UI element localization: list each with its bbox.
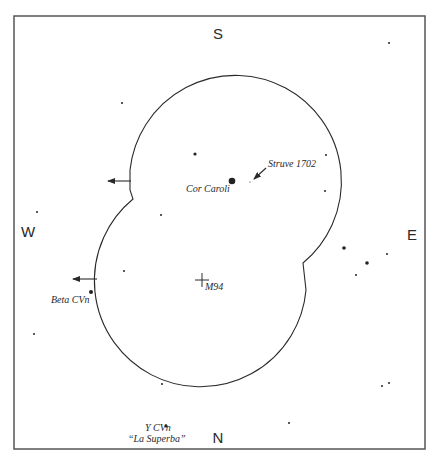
star-struve-1702 [249,181,250,182]
cardinal-north: N [213,429,224,446]
arrows-group [73,168,266,279]
star-dot [36,211,38,213]
star-dot [121,102,123,104]
cardinal-east: E [407,226,417,243]
star-dot [381,385,383,387]
finder-chart: S N W E Cor Caroli Struve 1702 M94 Beta … [0,0,435,466]
chart-frame [14,16,425,449]
star-dot [33,333,35,335]
stars-group [33,42,390,428]
label-la-superba: “La Superba” [128,433,186,444]
star-dot [365,261,369,265]
label-beta-cvn: Beta CVn [51,294,90,305]
label-struve-1702: Struve 1702 [268,158,316,169]
label-cor-caroli: Cor Caroli [186,183,230,194]
star-dot [325,154,327,156]
star-dot [388,382,390,384]
struve-pointer-arrow-icon [254,168,266,179]
star-dot [123,270,125,272]
star-dot [193,152,196,155]
star-dot [161,383,163,385]
label-m94: M94 [204,281,223,292]
field-outline [94,75,341,386]
star-dot [324,190,326,192]
cardinal-south: S [213,25,223,42]
cardinal-west: W [21,223,36,240]
star-dot [342,246,346,250]
star-dot [160,214,162,216]
label-y-cvn: Y CVn [145,422,171,433]
star-dot [288,422,290,424]
star-dot [355,274,357,276]
star-dot [388,42,390,44]
star-dot [386,253,388,255]
